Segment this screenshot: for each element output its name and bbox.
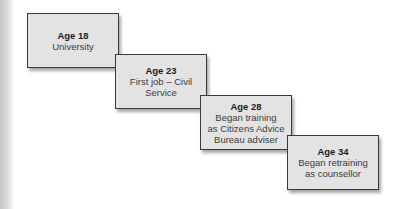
stage-age: Age 28 [230,101,261,112]
stage-description: Began training as Citizens Advice Bureau… [207,112,284,145]
stage-age: Age 23 [145,65,176,76]
stage-description: First job – Civil Service [130,76,192,98]
stage-box-age-28: Age 28 Began training as Citizens Advice… [200,95,292,150]
stage-box-age-34: Age 34 Began retraining as counsellor [287,135,379,190]
stage-box-age-18: Age 18 University [27,13,119,68]
stage-description: University [52,41,94,52]
stage-age: Age 18 [57,30,88,41]
page-edge-shadow [0,0,14,209]
stage-box-age-23: Age 23 First job – Civil Service [115,54,207,109]
stage-description: Began retraining as counsellor [298,157,368,179]
stage-age: Age 34 [317,146,348,157]
